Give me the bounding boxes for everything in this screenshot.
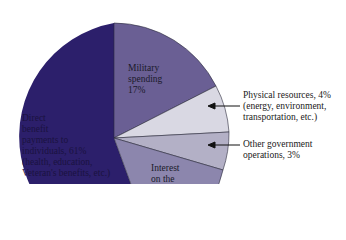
label-direct-benefits: Direct benefit payments to individuals, …	[22, 113, 110, 179]
label-military: Military spending 17%	[128, 63, 162, 96]
label-other-government: Other government operations, 3%	[243, 139, 312, 161]
label-interest: Interest on the	[151, 163, 180, 184]
label-physical-resources: Physical resources, 4% (energy, environm…	[243, 90, 331, 123]
